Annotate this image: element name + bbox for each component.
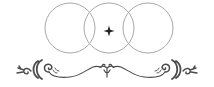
ornament-graphic <box>0 0 214 87</box>
flourish-leaf-left <box>17 66 31 74</box>
scroll-flourish <box>17 60 197 79</box>
circle-right <box>123 3 173 53</box>
ornament-canvas: Decorative divider ornament <box>0 0 214 87</box>
flourish-leaf-right <box>183 66 197 74</box>
four-point-star-icon <box>104 26 115 37</box>
flourish-curl-left <box>45 64 52 72</box>
flourish-arcs-right <box>172 60 181 79</box>
circle-left <box>45 3 95 53</box>
flourish-arcs-left <box>34 60 43 79</box>
flourish-tendrils-right <box>155 68 161 73</box>
flourish-center-motif <box>100 64 114 77</box>
flourish-sweep-right <box>113 66 165 77</box>
flourish-curl-right <box>162 64 169 72</box>
flourish-sweep-left <box>49 66 101 77</box>
flourish-tendrils-left <box>53 68 59 73</box>
